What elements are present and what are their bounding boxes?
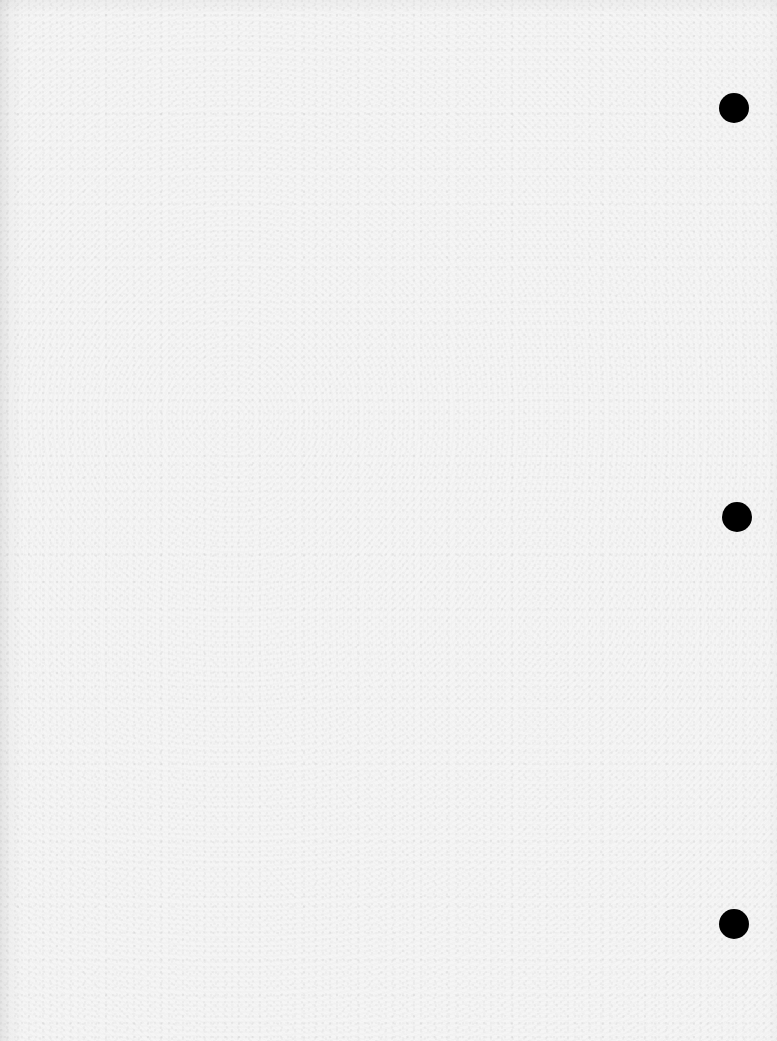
paper-texture [0,0,777,1041]
punch-hole-middle [722,502,752,532]
punch-hole-top [719,93,749,123]
blank-paper-sheet [0,0,777,1041]
punch-hole-bottom [719,909,749,939]
